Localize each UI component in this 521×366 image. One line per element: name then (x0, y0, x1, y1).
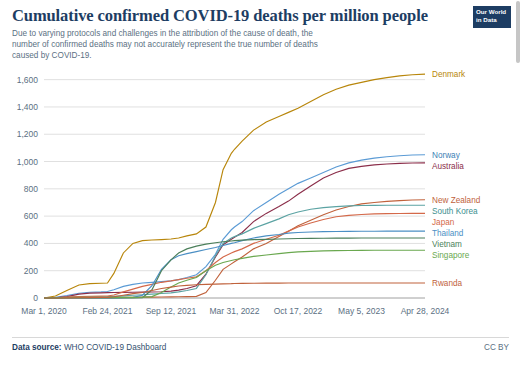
chart-svg: 02004006008001,0001,2001,4001,600Mar 1, … (0, 58, 521, 330)
series-label[interactable]: New Zealand (432, 196, 481, 205)
page-title: Cumulative confirmed COVID-19 deaths per… (12, 6, 428, 26)
y-axis-tick-label: 0 (33, 293, 38, 303)
series-line[interactable] (44, 74, 425, 298)
series-line[interactable] (44, 163, 425, 298)
series-line[interactable] (44, 250, 425, 298)
y-axis-tick-label: 400 (24, 238, 38, 248)
series-label[interactable]: South Korea (432, 207, 478, 216)
series-label[interactable]: Singapore (432, 251, 470, 260)
vertical-scrollbar[interactable] (516, 1, 520, 63)
footer-divider (12, 337, 509, 338)
y-axis-tick-label: 1,600 (17, 75, 39, 85)
y-axis-tick-label: 800 (24, 184, 38, 194)
series-line[interactable] (44, 213, 425, 298)
license-label[interactable]: CC BY (484, 343, 509, 352)
x-axis-tick-label: May 5, 2023 (338, 306, 385, 316)
series-label[interactable]: Vietnam (432, 240, 462, 249)
y-axis-tick-label: 200 (24, 266, 38, 276)
series-label[interactable]: Rwanda (432, 279, 462, 288)
data-source-label: Data source: (12, 343, 62, 352)
x-axis-tick-label: Feb 24, 2021 (82, 306, 132, 316)
series-line[interactable] (44, 238, 425, 298)
series-label[interactable]: Australia (432, 162, 464, 171)
x-axis-tick-label: Sep 12, 2021 (146, 306, 197, 316)
x-axis-tick-label: Mar 1, 2020 (21, 306, 67, 316)
series-label[interactable]: Norway (432, 151, 461, 160)
owid-logo-line2: in Data (476, 16, 508, 24)
y-axis-tick-label: 1,200 (17, 129, 39, 139)
series-label[interactable]: Denmark (432, 70, 466, 79)
chart-page: Cumulative confirmed COVID-19 deaths per… (0, 0, 521, 366)
x-axis-tick-label: Mar 31, 2022 (209, 306, 259, 316)
series-line[interactable] (44, 155, 425, 298)
x-axis-tick-label: Apr 28, 2024 (401, 306, 450, 316)
chart-subtitle: Due to varying protocols and challenges … (12, 28, 342, 61)
y-axis-tick-label: 1,400 (17, 102, 39, 112)
series-label[interactable]: Thailand (432, 229, 464, 238)
line-chart[interactable]: 02004006008001,0001,2001,4001,600Mar 1, … (0, 58, 521, 330)
y-axis-tick-label: 600 (24, 211, 38, 221)
owid-logo-line1: Our World (476, 8, 508, 16)
data-source: Data source: WHO COVID-19 Dashboard (12, 343, 166, 352)
owid-logo[interactable]: Our World in Data (473, 6, 511, 28)
x-axis-tick-label: Oct 17, 2022 (274, 306, 323, 316)
y-axis-tick-label: 1,000 (17, 157, 39, 167)
series-label[interactable]: Japan (432, 218, 455, 227)
data-source-value: WHO COVID-19 Dashboard (64, 343, 166, 352)
